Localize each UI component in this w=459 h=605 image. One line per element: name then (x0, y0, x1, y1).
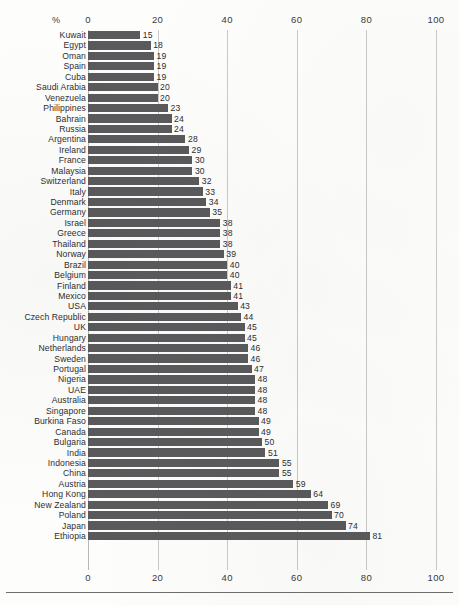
category-label: Australia (0, 395, 86, 405)
bar (88, 240, 220, 248)
bar (88, 41, 151, 49)
category-label: Bulgaria (0, 437, 86, 447)
category-label: UK (0, 322, 86, 332)
bar-row: Greece38 (0, 228, 459, 238)
category-label: Poland (0, 510, 86, 520)
bar-row: Hong Kong64 (0, 489, 459, 499)
bar-row: Poland70 (0, 510, 459, 520)
bar (88, 250, 224, 258)
category-label: Hungary (0, 333, 86, 343)
bar (88, 104, 168, 112)
bar-value-label: 19 (157, 51, 167, 61)
category-label: UAE (0, 385, 86, 395)
bar (88, 135, 185, 143)
bar-row: Mexico41 (0, 291, 459, 301)
bar-value-label: 49 (261, 416, 271, 426)
category-label: Kuwait (0, 30, 86, 40)
bar-row: Czech Republic44 (0, 312, 459, 322)
bar (88, 73, 154, 81)
category-label: Netherlands (0, 343, 86, 353)
bar-row: Switzerland32 (0, 176, 459, 186)
category-label: Greece (0, 228, 86, 238)
category-label: Philippines (0, 103, 86, 113)
category-label: Ireland (0, 145, 86, 155)
bar-value-label: 30 (195, 155, 205, 165)
bar (88, 208, 210, 216)
bar (88, 229, 220, 237)
category-label: Portugal (0, 364, 86, 374)
bar-value-label: 18 (153, 40, 163, 50)
category-label: France (0, 155, 86, 165)
category-label: Japan (0, 521, 86, 531)
footer-rule (6, 592, 453, 593)
bar (88, 198, 206, 206)
bar-row: Israel38 (0, 218, 459, 228)
bar-row: Egypt18 (0, 40, 459, 50)
category-label: Germany (0, 207, 86, 217)
bar-row: Thailand38 (0, 239, 459, 249)
horizontal-bar-chart: % 020406080100 Kuwait15Egypt18Oman19Spai… (0, 0, 459, 605)
category-label: Saudi Arabia (0, 82, 86, 92)
bar-row: New Zealand69 (0, 500, 459, 510)
bar-value-label: 38 (223, 228, 233, 238)
bar-row: Italy33 (0, 187, 459, 197)
category-label: Burkina Faso (0, 416, 86, 426)
bar-row: Saudi Arabia20 (0, 82, 459, 92)
bar-value-label: 40 (230, 270, 240, 280)
x-axis-bottom: 020406080100 (0, 572, 459, 586)
bar (88, 292, 231, 300)
bar-value-label: 30 (195, 166, 205, 176)
bar-value-label: 48 (258, 395, 268, 405)
bar-row: UK45 (0, 322, 459, 332)
bar-rows: Kuwait15Egypt18Oman19Spain19Cuba19Saudi … (0, 30, 459, 541)
category-label: USA (0, 301, 86, 311)
bar-value-label: 46 (251, 354, 261, 364)
bar (88, 365, 252, 373)
bar-row: Canada49 (0, 427, 459, 437)
x-tick-label-20: 20 (152, 14, 163, 25)
x-tick-label-80: 80 (361, 14, 372, 25)
bar (88, 459, 279, 467)
category-label: Belgium (0, 270, 86, 280)
x-tick-label-0: 0 (85, 572, 91, 583)
bar-value-label: 19 (157, 61, 167, 71)
category-label: Hong Kong (0, 489, 86, 499)
bar-value-label: 29 (191, 145, 201, 155)
bar-row: France30 (0, 155, 459, 165)
bar-row: Nigeria48 (0, 374, 459, 384)
bar (88, 501, 328, 509)
bar-value-label: 19 (157, 72, 167, 82)
bar (88, 261, 227, 269)
x-axis-top: 020406080100 (0, 14, 459, 28)
bar (88, 313, 241, 321)
bar-value-label: 45 (247, 322, 257, 332)
bar-value-label: 43 (240, 301, 250, 311)
category-label: Italy (0, 187, 86, 197)
bar-row: UAE48 (0, 385, 459, 395)
category-label: Singapore (0, 406, 86, 416)
x-tick-label-20: 20 (152, 572, 163, 583)
bar-value-label: 69 (331, 500, 341, 510)
bar (88, 428, 259, 436)
bar (88, 167, 192, 175)
bar (88, 375, 255, 383)
bar-row: Australia48 (0, 395, 459, 405)
bar (88, 386, 255, 394)
bar-row: Belgium40 (0, 270, 459, 280)
bar (88, 31, 140, 39)
bar-row: India51 (0, 448, 459, 458)
category-label: Brazil (0, 260, 86, 270)
bar-value-label: 45 (247, 333, 257, 343)
category-label: Indonesia (0, 458, 86, 468)
bar-row: Kuwait15 (0, 30, 459, 40)
bar-row: USA43 (0, 301, 459, 311)
bar-row: Bahrain24 (0, 114, 459, 124)
category-label: Cuba (0, 72, 86, 82)
bar (88, 480, 293, 488)
bar-value-label: 41 (233, 291, 243, 301)
bar (88, 156, 192, 164)
bar-row: Denmark34 (0, 197, 459, 207)
bar-value-label: 28 (188, 134, 198, 144)
bar-value-label: 50 (265, 437, 275, 447)
bar-value-label: 20 (160, 82, 170, 92)
